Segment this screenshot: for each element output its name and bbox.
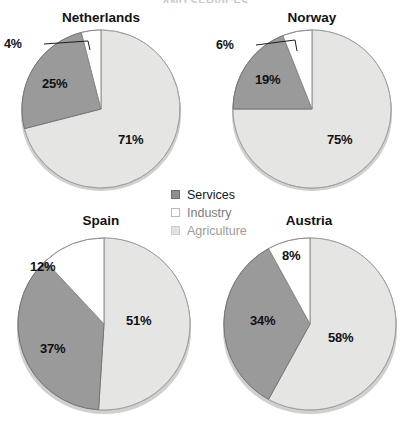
pie-graphic-netherlands xyxy=(18,28,185,193)
chart-title-spain: Spain xyxy=(2,213,200,228)
slice-label-austria-services: 34% xyxy=(250,313,275,328)
slice-label-norway-agriculture: 75% xyxy=(327,132,352,147)
slice-label-netherlands-agriculture: 71% xyxy=(118,132,143,147)
slice-label-spain-agriculture: 51% xyxy=(126,313,151,328)
pie-svg-norway xyxy=(229,28,396,193)
slice-label-norway-services: 19% xyxy=(255,72,280,87)
chart-title-netherlands: Netherlands xyxy=(2,10,200,25)
legend-item-services[interactable]: Services xyxy=(171,186,291,203)
slice-label-spain-industry: 12% xyxy=(30,259,55,274)
slice-label-netherlands-industry: 4% xyxy=(4,37,22,51)
slice-label-norway-industry: 6% xyxy=(216,38,234,52)
chart-title-austria: Austria xyxy=(210,213,408,228)
legend-swatch-services-icon xyxy=(171,190,180,199)
legend-label-services: Services xyxy=(187,188,235,202)
chart-title-norway: Norway xyxy=(213,10,411,25)
figure-canvas: AND SERVICES Netherlands xyxy=(0,0,411,434)
pie-graphic-austria xyxy=(220,231,400,427)
slice-label-spain-services: 37% xyxy=(40,341,65,356)
pie-chart-norway: Norway 75% 19% 6% xyxy=(213,10,411,192)
pie-graphic-norway xyxy=(229,28,396,193)
slice-label-netherlands-services: 25% xyxy=(42,76,67,91)
pie-svg-netherlands xyxy=(18,28,185,193)
pie-chart-netherlands: Netherlands 71% xyxy=(2,10,200,192)
slice-label-austria-agriculture: 58% xyxy=(328,330,353,345)
pie-chart-austria: Austria 58% 34% 8% xyxy=(210,213,408,428)
pie-chart-spain: Spain 51% 37% 12% xyxy=(2,213,200,428)
figure-top-title: AND SERVICES xyxy=(0,0,411,3)
slice-label-austria-industry: 8% xyxy=(282,248,300,263)
pie-svg-austria xyxy=(220,231,400,427)
